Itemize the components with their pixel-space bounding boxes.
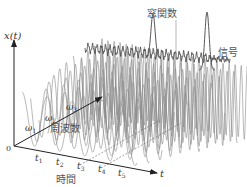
time-axis-label: 時間 <box>56 175 76 185</box>
frequency-tick-w3: ω3 <box>66 103 77 113</box>
frequency-tick-w2: ω2 <box>45 114 56 124</box>
stft-diagram: x(t) 0 t 時間 周波数 窓関数 信号 t1 t2 t3 t4 t5 ω1… <box>0 0 247 187</box>
window-function-label: 窓関数 <box>147 9 177 19</box>
signal-axis-label: x(t) <box>4 31 21 41</box>
frequency-axis <box>14 97 102 146</box>
time-tick-t2: t2 <box>56 158 63 168</box>
time-tick-t1: t1 <box>35 154 42 164</box>
time-tick-t3: t3 <box>77 162 84 172</box>
time-axis-symbol: t <box>160 169 164 179</box>
frequency-sinusoids <box>22 39 247 166</box>
origin-label: 0 <box>6 145 11 153</box>
frequency-tick-w1: ω1 <box>25 124 36 134</box>
time-tick-t5: t5 <box>118 169 125 179</box>
signal-label: 信号 <box>218 48 238 58</box>
time-tick-t4: t4 <box>98 165 105 175</box>
frequency-axis-label: 周波数 <box>50 124 80 134</box>
